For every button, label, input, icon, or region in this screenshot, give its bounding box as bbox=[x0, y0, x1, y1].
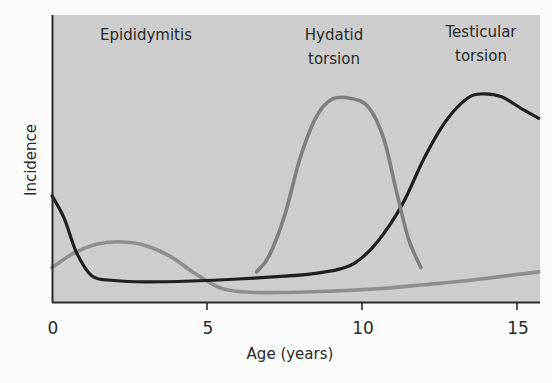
annotation-epididymitis: Epididymitis bbox=[100, 26, 192, 44]
annotation-hydatid-torsion-line2: torsion bbox=[308, 50, 360, 68]
annotation-testicular-torsion-line2: torsion bbox=[455, 47, 507, 65]
x-tick-layer: 051015 bbox=[48, 302, 529, 338]
x-tick-label: 15 bbox=[507, 318, 529, 338]
x-tick-label: 0 bbox=[48, 318, 59, 338]
incidence-by-age-chart: 051015 Epididymitis Hydatid torsion Test… bbox=[0, 0, 552, 383]
x-axis-label: Age (years) bbox=[247, 345, 334, 363]
annotation-testicular-torsion-line1: Testicular bbox=[445, 23, 518, 41]
x-tick-label: 5 bbox=[203, 318, 214, 338]
x-tick-label: 10 bbox=[352, 318, 374, 338]
y-axis-label: Incidence bbox=[22, 124, 40, 196]
annotation-hydatid-torsion-line1: Hydatid bbox=[305, 26, 363, 44]
